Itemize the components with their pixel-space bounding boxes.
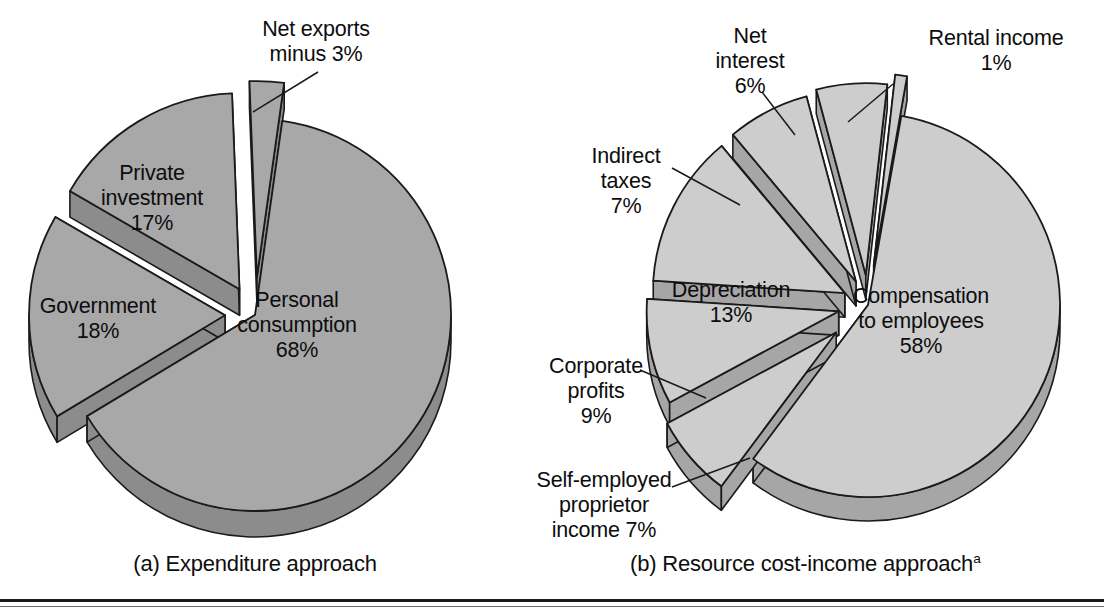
slice-label-indirect-taxes: Indirect taxes 7%: [562, 144, 690, 219]
caption-right-text: (b) Resource cost-income approach: [630, 551, 973, 576]
bottom-divider-rule-secondary: [0, 606, 1104, 607]
caption-left-text: (a) Expenditure approach: [133, 551, 376, 576]
slice-label-personal-consumption: Personal consumption 68%: [212, 288, 382, 363]
caption-right-superscript: a: [973, 551, 980, 566]
slice-label-net-exports: Net exports minus 3%: [236, 17, 396, 67]
slice-label-rental-income: Rental income 1%: [906, 26, 1086, 76]
slice-label-government: Government 18%: [10, 294, 186, 344]
bottom-divider-rule: [0, 599, 1104, 602]
caption-resource-cost-income-approach: (b) Resource cost-income approacha: [630, 551, 1100, 577]
slice-label-net-interest: Net interest 6%: [688, 24, 812, 99]
slice-label-corporate-profits: Corporate profits 9%: [524, 354, 668, 429]
caption-expenditure-approach: (a) Expenditure approach: [55, 551, 455, 577]
gdp-pie-figure: Personal consumption 68% Government 18% …: [0, 0, 1104, 611]
slice-label-compensation-to-employees: Compensation to employees 58%: [826, 284, 1016, 359]
slice-label-depreciation: Depreciation 13%: [648, 278, 814, 328]
slice-label-private-investment: Private investment 17%: [72, 161, 232, 236]
slice-label-self-employed-proprietor-income: Self-employed proprietor income 7%: [516, 468, 692, 543]
